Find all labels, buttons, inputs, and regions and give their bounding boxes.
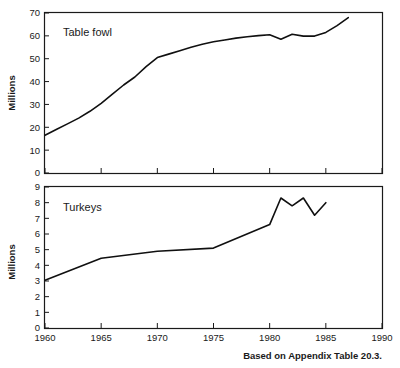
- y-tick-label: 60: [29, 30, 40, 41]
- poultry-production-figure: 010203040506070 Millions Table fowl 0123…: [0, 0, 400, 368]
- y-tick-label: 20: [29, 122, 40, 133]
- y-tick-label: 2: [35, 291, 40, 302]
- x-tick-label: 1980: [259, 332, 280, 343]
- bottom-panel-y-axis-title: Millions: [6, 244, 17, 279]
- y-tick-label: 7: [35, 213, 40, 224]
- y-tick-label: 5: [35, 244, 40, 255]
- x-tick-label: 1965: [91, 332, 112, 343]
- y-tick-label: 30: [29, 99, 40, 110]
- y-tick-label: 4: [35, 260, 40, 271]
- y-tick-label: 8: [35, 197, 40, 208]
- x-tick-label: 1960: [34, 332, 55, 343]
- x-tick-label: 1990: [371, 332, 392, 343]
- y-tick-label: 3: [35, 275, 40, 286]
- y-tick-label: 10: [29, 145, 40, 156]
- y-tick-label: 9: [35, 181, 40, 192]
- figure-background: [0, 0, 400, 368]
- top-panel-series-label: Table fowl: [63, 26, 112, 38]
- y-tick-label: 70: [29, 7, 40, 18]
- y-tick-label: 6: [35, 228, 40, 239]
- y-tick-label: 0: [35, 167, 40, 178]
- y-tick-label: 40: [29, 76, 40, 87]
- y-tick-label: 1: [35, 307, 40, 318]
- x-tick-label: 1970: [147, 332, 168, 343]
- x-tick-label: 1975: [203, 332, 224, 343]
- figure-caption: Based on Appendix Table 20.3.: [243, 350, 382, 361]
- top-panel-y-axis-title: Millions: [6, 75, 17, 110]
- bottom-panel-series-label: Turkeys: [63, 201, 102, 213]
- y-tick-label: 50: [29, 53, 40, 64]
- x-tick-label: 1985: [315, 332, 336, 343]
